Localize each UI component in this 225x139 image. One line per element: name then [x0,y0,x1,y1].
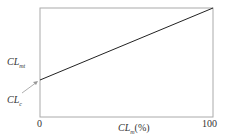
x-axis-label: CLm(%) [118,122,150,135]
plot-frame [40,8,213,117]
data-line [40,8,213,80]
y-annotation-clmt: CLmt [7,56,25,69]
x-tick-0: 0 [37,118,42,129]
x-tick-100: 100 [202,118,217,129]
y-annotation-clc: CLc [7,94,22,107]
chart-canvas [0,0,225,139]
